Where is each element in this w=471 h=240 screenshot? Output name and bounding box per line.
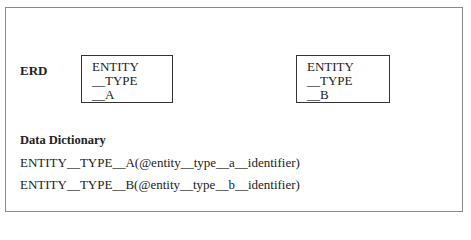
- entity-b-line-2: __TYPE: [307, 74, 389, 88]
- data-dictionary-entry: ENTITY__TYPE__A(@entity__type__a__identi…: [20, 155, 300, 171]
- data-dictionary-entry: ENTITY__TYPE__B(@entity__type__b__identi…: [20, 177, 300, 193]
- entity-box-a: ENTITY __TYPE __A: [81, 55, 173, 103]
- data-dictionary-title: Data Dictionary: [20, 133, 106, 148]
- erd-label: ERD: [20, 63, 47, 79]
- entity-box-b: ENTITY __TYPE __B: [296, 55, 390, 103]
- entity-a-line-1: ENTITY: [92, 60, 172, 74]
- entity-a-line-2: __TYPE: [92, 74, 172, 88]
- entity-a-line-3: __A: [92, 88, 172, 102]
- entity-b-line-3: __B: [307, 88, 389, 102]
- entity-b-line-1: ENTITY: [307, 60, 389, 74]
